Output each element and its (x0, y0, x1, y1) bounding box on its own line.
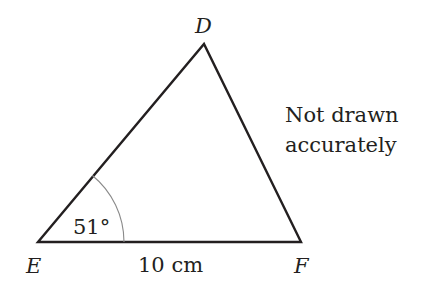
side-label-ef: 10 cm (138, 253, 203, 277)
triangle-def (38, 44, 301, 242)
vertex-label-d: D (194, 14, 212, 38)
vertex-label-e: E (25, 254, 41, 278)
triangle-diagram: D E F 51° 10 cm Not drawn accurately (0, 0, 441, 284)
note-line-2: accurately (285, 133, 397, 157)
note-line-1: Not drawn (285, 103, 399, 127)
vertex-label-f: F (293, 254, 310, 278)
angle-label-e: 51° (73, 215, 110, 239)
